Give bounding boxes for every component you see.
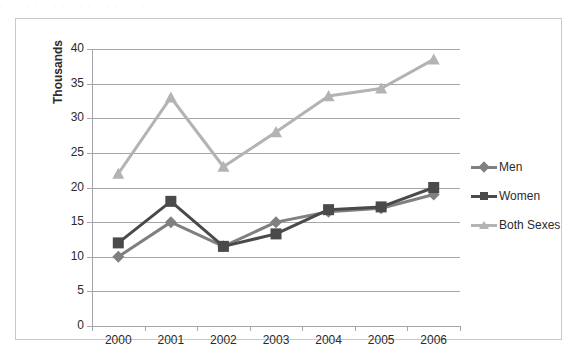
x-axis-tick-label: 2002 xyxy=(193,333,253,347)
series-layer xyxy=(92,49,460,326)
legend-swatch-diamond-icon xyxy=(471,161,497,173)
data-point-marker xyxy=(428,182,439,193)
y-axis-tick-label: 15 xyxy=(16,214,84,228)
x-axis-tick-label: 2003 xyxy=(246,333,306,347)
gridline xyxy=(92,326,460,327)
legend-label: Men xyxy=(499,160,522,174)
legend-entry-men[interactable]: Men xyxy=(471,152,559,181)
data-point-marker xyxy=(165,196,176,207)
legend-label: Women xyxy=(499,189,540,203)
y-axis-tick-label: 40 xyxy=(16,41,84,55)
x-axis-tick-mark xyxy=(355,326,356,331)
x-axis-tick-label: 2000 xyxy=(88,333,148,347)
x-axis-tick-mark xyxy=(250,326,251,331)
legend-label: Both Sexes xyxy=(499,218,560,232)
data-point-marker xyxy=(270,216,282,228)
x-axis-tick-mark xyxy=(92,326,93,331)
y-axis-tick-label: 25 xyxy=(16,145,84,159)
data-point-marker xyxy=(376,201,387,212)
x-axis-tick-label: 2005 xyxy=(351,333,411,347)
legend-entry-women[interactable]: Women xyxy=(471,181,559,210)
data-point-marker xyxy=(323,204,334,215)
data-point-marker xyxy=(271,228,282,239)
y-axis-tick-label: 35 xyxy=(16,76,84,90)
series-line xyxy=(118,59,433,173)
y-axis-tick-label: 20 xyxy=(16,180,84,194)
x-axis-tick-label: 2004 xyxy=(299,333,359,347)
y-axis-tick-label: 0 xyxy=(16,318,84,332)
data-point-marker xyxy=(218,241,229,252)
series-men xyxy=(112,188,439,262)
data-point-marker xyxy=(113,237,124,248)
plot-area xyxy=(92,49,460,326)
x-axis-tick-mark xyxy=(407,326,408,331)
chart-frame: Thousands 0510152025303540 2000200120022… xyxy=(15,18,562,340)
y-axis-tick-label: 5 xyxy=(16,283,84,297)
series-both-sexes xyxy=(112,53,439,178)
legend-swatch-square-icon xyxy=(471,190,497,202)
x-axis-tick-label: 2001 xyxy=(141,333,201,347)
y-axis-tick-label: 30 xyxy=(16,110,84,124)
x-axis-tick-mark xyxy=(197,326,198,331)
top-bleed-text: . . . . . . . . . . . . . . . . . xyxy=(0,0,578,9)
data-point-marker xyxy=(165,91,177,102)
x-axis-tick-mark xyxy=(460,326,461,331)
data-point-marker xyxy=(428,53,440,64)
x-axis-tick-mark xyxy=(145,326,146,331)
chart-legend: MenWomenBoth Sexes xyxy=(471,152,559,239)
y-axis-title: Thousands xyxy=(51,24,65,120)
y-axis-tick-label: 10 xyxy=(16,249,84,263)
x-axis-tick-label: 2006 xyxy=(404,333,464,347)
legend-entry-both-sexes[interactable]: Both Sexes xyxy=(471,210,559,239)
x-axis-tick-mark xyxy=(302,326,303,331)
legend-swatch-triangle-icon xyxy=(471,219,497,231)
